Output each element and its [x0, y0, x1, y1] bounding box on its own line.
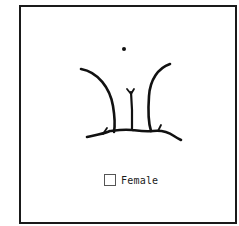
- left-curve: [81, 69, 115, 132]
- right-curve: [148, 64, 170, 131]
- dot-mark: [122, 47, 126, 51]
- base-line: [87, 130, 181, 140]
- female-label: Female: [121, 175, 158, 186]
- anatomy-illustration: [0, 0, 239, 226]
- middle-stem: [131, 92, 132, 130]
- legend: Female: [104, 174, 158, 186]
- female-checkbox[interactable]: [104, 174, 116, 186]
